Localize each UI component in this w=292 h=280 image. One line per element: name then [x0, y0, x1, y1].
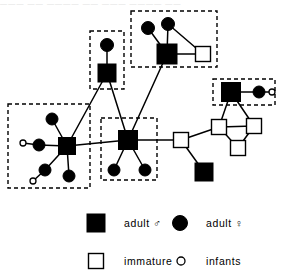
node-TR-f2 [162, 18, 175, 31]
legend-symbol-adult-female [173, 216, 188, 231]
diagram-canvas: adult ♂adult ♀immature ♂infants [0, 0, 292, 280]
edges-layer [23, 24, 272, 181]
edge-TM-male-to-M-male [107, 73, 128, 140]
node-TR-f1 [142, 22, 155, 35]
node-TM-female [101, 39, 114, 52]
node-R-imm2 [247, 119, 262, 134]
legend-symbol-adult-male [87, 214, 105, 232]
node-R-imm3 [231, 141, 246, 156]
node-TR-male [157, 44, 177, 64]
node-L-f3 [39, 164, 51, 176]
legend-label-immature-male: immature ♂ [124, 255, 185, 267]
legend-label-adult-male: adult ♂ [124, 217, 162, 229]
node-TR-imm [196, 47, 211, 62]
node-L-inf2 [30, 178, 36, 184]
node-L-f2 [33, 139, 45, 151]
node-L-f4 [63, 170, 75, 182]
node-TM-male [98, 64, 116, 82]
node-R-imm4 [174, 133, 189, 148]
nodes-layer [20, 18, 275, 185]
node-L-male [59, 138, 76, 155]
legend-symbol-infants [177, 257, 185, 265]
node-M-f2 [139, 164, 151, 176]
legend-symbol-immature-male [89, 254, 104, 269]
node-M-f1 [108, 164, 120, 176]
node-RT-infant [269, 89, 275, 95]
node-L-f1 [46, 113, 58, 125]
node-M-male [119, 131, 138, 150]
legend-label-infants: infants [206, 255, 241, 267]
legend-layer: adult ♂adult ♀immature ♂infants [87, 214, 244, 269]
node-RT-female [253, 86, 265, 98]
node-R-imm1 [212, 120, 227, 135]
kinship-diagram-figure: ――― ―― ―――― ―― ――― ―――― ―― adult ♂adult … [0, 0, 292, 280]
legend-label-adult-female: adult ♀ [206, 217, 244, 229]
node-L-inf1 [20, 140, 26, 146]
node-RT-male [222, 83, 241, 102]
node-R-male-low [195, 163, 213, 181]
